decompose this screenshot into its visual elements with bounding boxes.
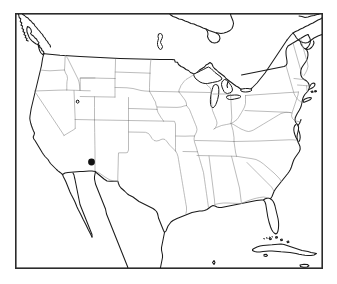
border-ky-tn xyxy=(195,141,234,142)
border-co-nm xyxy=(95,120,129,121)
delmarva-peninsula xyxy=(298,130,300,142)
border-wy-co xyxy=(80,97,115,98)
border-nc-sc xyxy=(237,156,282,181)
border-nd-sd xyxy=(115,72,150,73)
border-pa-ny xyxy=(246,92,299,96)
nantucket xyxy=(315,91,317,93)
border-ar-ms xyxy=(194,136,198,152)
border-ga-al xyxy=(232,156,242,203)
border-mt-wy xyxy=(80,78,115,79)
border-ks-mo xyxy=(157,109,164,121)
border-ok-tx xyxy=(129,132,176,151)
border-nm-tx xyxy=(118,121,129,182)
border-nm-mexico xyxy=(95,171,118,181)
delaware-bay xyxy=(298,120,301,126)
border-ne-ks xyxy=(129,109,158,110)
bahamas-island-4 xyxy=(287,241,289,243)
maine-canada-border xyxy=(242,35,309,76)
hudson-bay-south-coast xyxy=(170,14,234,33)
lake-superior xyxy=(194,67,223,84)
us-pacific-coast xyxy=(30,54,63,175)
border-ky-va xyxy=(231,124,234,142)
border-mi-wi xyxy=(206,84,211,93)
border-la-ms xyxy=(198,152,210,208)
border-ma-ct xyxy=(298,85,310,86)
us-atlantic-coast xyxy=(271,49,310,199)
newfoundland-coast xyxy=(299,14,319,17)
border-ut-nv xyxy=(74,91,75,120)
marthas-vineyard xyxy=(311,91,313,93)
border-va-nc xyxy=(234,140,297,142)
gulf-coast xyxy=(159,200,264,233)
border-wi-il xyxy=(179,92,211,93)
lake-erie xyxy=(227,95,242,100)
border-id-mt xyxy=(65,56,80,91)
us-map-figure: United States state outline map Arizona xyxy=(0,0,337,284)
border-sd-mn-ia xyxy=(150,73,151,91)
border-ct-ri xyxy=(307,86,308,91)
puget-sound-coast xyxy=(38,45,44,55)
bahamas-island-2 xyxy=(276,237,278,239)
border-tx-la xyxy=(176,151,187,214)
gulf-of-california-mainland-coast xyxy=(95,172,129,269)
border-mn-wi xyxy=(179,75,194,92)
bahamas-island-1 xyxy=(269,238,272,240)
border-or-nv-ca xyxy=(35,90,67,91)
cape-cod xyxy=(309,83,315,90)
james-bay-coast xyxy=(206,29,220,43)
border-vt-nh xyxy=(293,43,302,75)
us-mexico-border xyxy=(63,171,159,218)
border-wa-id xyxy=(65,56,66,71)
border-nv-az xyxy=(64,129,75,136)
border-ks-ok xyxy=(129,121,164,122)
border-al-ms xyxy=(209,156,215,205)
border-tn-nc xyxy=(234,142,237,157)
baja-california-west-coast xyxy=(63,175,93,238)
map-canvas xyxy=(0,0,337,284)
border-sd-ne xyxy=(115,88,150,92)
great-salt-lake xyxy=(76,100,79,103)
border-nv-ca xyxy=(35,91,65,136)
lake-of-the-woods-border xyxy=(172,60,196,74)
border-ne-ia xyxy=(150,91,158,109)
border-ia-mo xyxy=(157,106,187,108)
border-mo-il xyxy=(187,106,198,137)
border-nd-mn xyxy=(150,59,151,73)
canada-us-border-west xyxy=(45,54,173,60)
border-ok-ar xyxy=(164,121,176,151)
lake-ontario xyxy=(241,89,253,93)
border-or-id xyxy=(65,70,68,90)
bahamas-island-3 xyxy=(281,239,283,241)
lake-winnipeg xyxy=(158,34,163,50)
border-tn-south xyxy=(197,156,237,157)
border-mn-ia xyxy=(150,91,180,92)
cuba xyxy=(253,244,317,256)
border-sc-ga xyxy=(247,163,274,192)
border-id-wy xyxy=(80,78,95,91)
jamaica xyxy=(300,264,309,267)
florida-peninsula-coast xyxy=(264,198,279,234)
mexico-east-coast xyxy=(160,233,164,269)
border-id-nv-ut xyxy=(67,90,90,91)
border-mt-nd xyxy=(115,60,116,79)
isla-de-la-juventud xyxy=(264,254,268,256)
long-island xyxy=(303,98,312,103)
border-ia-il xyxy=(179,92,187,106)
ontario-quebec-border xyxy=(242,40,287,91)
yucatan-tip xyxy=(213,261,216,265)
map-border xyxy=(16,14,322,268)
border-wa-or xyxy=(41,70,65,71)
location-marker[interactable] xyxy=(88,159,95,166)
